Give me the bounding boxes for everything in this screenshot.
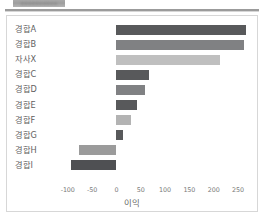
redacted-title-block: ▪▪▪▪▪▪▪▪▪▪ (13, 0, 65, 7)
screenshot-root: ▪▪▪▪▪▪▪▪▪▪ 경합A경합B자사X경합C경합D경합E경합F경합G경합H경합… (0, 0, 264, 217)
x-axis-tick-label: 50 (137, 186, 145, 194)
bar (116, 130, 122, 140)
bar-category-label: 경합F (7, 113, 55, 128)
bar-row: 경합H (7, 143, 257, 158)
bar-category-label: 경합I (7, 158, 55, 173)
redacted-title-text: ▪▪▪▪▪▪▪▪▪▪ (13, 0, 65, 7)
bar (71, 160, 117, 170)
bar-row: 경합F (7, 113, 257, 128)
x-axis-title: 이익 (7, 196, 257, 208)
bar-category-label: 경합E (7, 98, 55, 113)
header-divider-shadow (5, 11, 259, 12)
bar (116, 115, 131, 125)
bar (116, 55, 220, 65)
bar-row: 경합C (7, 67, 257, 82)
bar (116, 70, 149, 80)
bar-row: 경합D (7, 82, 257, 97)
bar (116, 25, 246, 35)
x-axis-tick-label: 100 (159, 186, 171, 194)
bar (116, 40, 243, 50)
x-axis-tick-label: -50 (87, 186, 97, 194)
bar-category-label: 경합D (7, 82, 55, 97)
bar (79, 145, 116, 155)
bar-row: 경합G (7, 128, 257, 143)
bar (116, 85, 144, 95)
bar-row: 경합A (7, 22, 257, 37)
x-axis-tick-label: 200 (208, 186, 220, 194)
x-axis-tick-label: -100 (61, 186, 75, 194)
bar-row: 자사X (7, 52, 257, 67)
bar-row: 경합I (7, 158, 257, 173)
bar (116, 100, 136, 110)
x-axis-tick-label: 250 (232, 186, 244, 194)
bar-category-label: 경합A (7, 22, 55, 37)
bar-row: 경합B (7, 37, 257, 52)
bar-category-label: 경합B (7, 37, 55, 52)
bar-category-label: 경합H (7, 143, 55, 158)
x-axis-tick-label: 150 (183, 186, 195, 194)
chart-card: 경합A경합B자사X경합C경합D경합E경합F경합G경합H경합I -100-5005… (6, 15, 258, 212)
bar-category-label: 경합G (7, 128, 55, 143)
x-axis-tick-label: 0 (114, 186, 118, 194)
bar-chart-plot-area: 경합A경합B자사X경합C경합D경합E경합F경합G경합H경합I (7, 16, 257, 211)
bar-row: 경합E (7, 98, 257, 113)
bar-category-label: 경합C (7, 67, 55, 82)
bar-category-label: 자사X (7, 52, 55, 67)
